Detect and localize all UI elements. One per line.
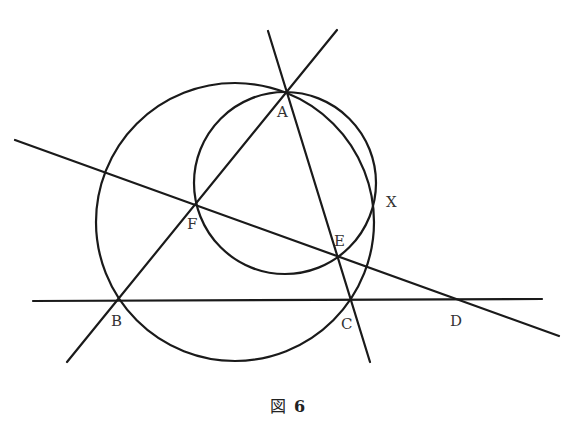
circumcircle-abc xyxy=(96,83,374,361)
geometry-diagram: A B C D E F X xyxy=(0,0,575,425)
label-x: X xyxy=(386,193,397,211)
label-f: F xyxy=(187,215,197,233)
label-a: A xyxy=(276,103,288,121)
label-d: D xyxy=(450,312,462,330)
label-b: B xyxy=(111,312,122,330)
caption-prefix: 図 xyxy=(270,397,286,416)
line-ac xyxy=(268,31,370,362)
caption-number: 6 xyxy=(294,397,305,416)
line-bd xyxy=(33,299,542,301)
label-c: C xyxy=(341,315,352,333)
label-e: E xyxy=(334,232,345,250)
line-ba xyxy=(67,30,337,362)
figure-caption: 図6 xyxy=(0,393,575,417)
